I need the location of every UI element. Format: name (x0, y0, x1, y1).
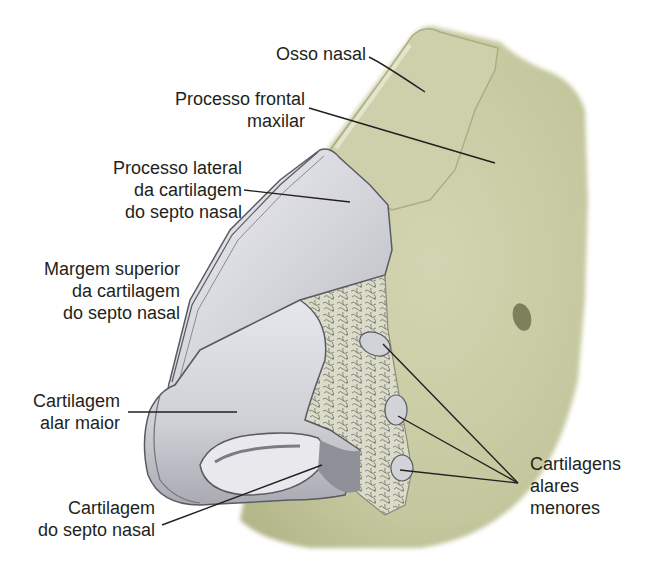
label-line: Cartilagem (10, 497, 155, 519)
label-processo-lateral: Processo lateral da cartilagem do septo … (80, 157, 242, 223)
label-cartilagem-septo-nasal: Cartilagem do septo nasal (10, 497, 155, 541)
label-line: alares (530, 475, 650, 497)
label-line: alar maior (10, 412, 120, 434)
lesser-alar-cartilage-2 (385, 395, 407, 425)
label-margem-superior: Margem superior da cartilagem do septo n… (10, 258, 180, 324)
label-line: da cartilagem (10, 280, 180, 302)
label-osso-nasal: Osso nasal (260, 43, 366, 65)
label-line: Processo lateral (80, 157, 242, 179)
label-cartilagem-alar-maior: Cartilagem alar maior (10, 390, 120, 434)
label-line: da cartilagem (80, 179, 242, 201)
label-line: Margem superior (10, 258, 180, 280)
label-line: Processo frontal (150, 88, 305, 110)
label-line: maxilar (150, 110, 305, 132)
label-processo-frontal-maxilar: Processo frontal maxilar (150, 88, 305, 132)
label-line: do septo nasal (80, 201, 242, 223)
label-line: do septo nasal (10, 519, 155, 541)
lesser-alar-cartilage-3 (391, 455, 413, 481)
label-cartilagens-alares-menores: Cartilagens alares menores (530, 453, 650, 519)
label-line: Cartilagem (10, 390, 120, 412)
label-line: Osso nasal (260, 43, 366, 65)
label-line: do septo nasal (10, 302, 180, 324)
label-line: Cartilagens (530, 453, 650, 475)
label-line: menores (530, 497, 650, 519)
